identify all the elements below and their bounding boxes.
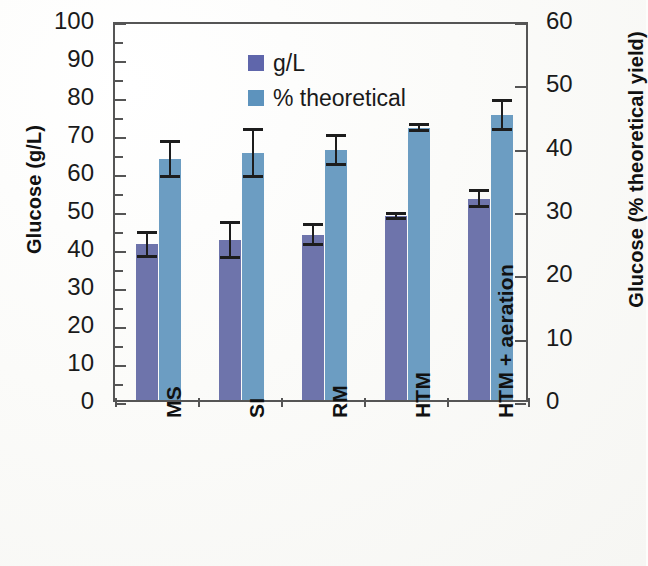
left-tick-label: 80: [32, 85, 94, 109]
left-tick-label: 70: [32, 123, 94, 147]
left-tick-label: 60: [32, 161, 94, 185]
left-tick-label: 20: [32, 313, 94, 337]
error-cap-bottom: [326, 163, 346, 166]
error-cap-top: [469, 189, 489, 192]
legend-swatch-pct-icon: [248, 90, 264, 106]
error-cap-bottom: [386, 217, 406, 220]
legend-item-pct: % theoretical: [248, 85, 468, 111]
error-cap-top: [160, 140, 180, 143]
legend-item-gl: g/L: [248, 50, 468, 76]
left-axis-tick-labels: 1009080706050403020100: [32, 0, 94, 566]
error-bar-pct: [335, 134, 337, 166]
left-tick-label: 90: [32, 47, 94, 71]
x-tick-mark: [528, 398, 530, 407]
bar-gl: [385, 216, 407, 400]
error-cap-top: [220, 221, 240, 224]
right-tick-label: 60: [546, 9, 608, 33]
error-bar-pct: [252, 128, 254, 179]
bar-pct: [159, 159, 181, 400]
error-cap-bottom: [492, 128, 512, 131]
error-bar-gl: [229, 221, 231, 259]
error-bar-gl: [395, 212, 397, 220]
right-axis-title: Glucose (% theoretical yield): [625, 0, 648, 340]
left-tick-label: 40: [32, 237, 94, 261]
x-category-label: HTM: [411, 372, 435, 418]
left-tick-label: 100: [32, 9, 94, 33]
error-cap-bottom: [469, 205, 489, 208]
error-cap-bottom: [160, 175, 180, 178]
right-tick-label: 10: [546, 326, 608, 350]
error-cap-top: [137, 231, 157, 234]
error-cap-bottom: [303, 243, 323, 246]
legend-label-pct: % theoretical: [273, 87, 406, 110]
legend-label-gl: g/L: [273, 52, 305, 75]
error-bar-gl: [146, 231, 148, 258]
left-tick-label: 0: [32, 389, 94, 413]
error-cap-bottom: [409, 129, 429, 132]
error-cap-top: [492, 99, 512, 102]
right-tick-label: 50: [546, 72, 608, 96]
bar-pct: [242, 153, 264, 400]
bar-gl: [219, 240, 241, 400]
left-tick-label: 30: [32, 275, 94, 299]
left-tick-label: 10: [32, 351, 94, 375]
error-cap-top: [386, 212, 406, 215]
error-cap-top: [243, 128, 263, 131]
plot-area: g/L % theoretical: [113, 22, 528, 402]
error-cap-bottom: [137, 255, 157, 258]
error-cap-top: [326, 134, 346, 137]
right-axis-tick-labels: 6050403020100: [546, 0, 608, 566]
error-bar-pct: [169, 140, 171, 178]
right-tick-label: 20: [546, 262, 608, 286]
x-category-label: SI: [245, 398, 269, 418]
error-cap-top: [303, 223, 323, 226]
right-tick-label: 40: [546, 136, 608, 160]
error-cap-top: [409, 123, 429, 126]
x-category-label: MS: [162, 386, 186, 418]
bar-gl: [136, 244, 158, 400]
bar-pct: [408, 128, 430, 400]
chart-legend: g/L % theoretical: [248, 50, 468, 120]
error-bar-gl: [478, 189, 480, 208]
left-tick-label: 50: [32, 199, 94, 223]
error-bar-gl: [312, 223, 314, 246]
bar-pct: [325, 150, 347, 400]
legend-swatch-gl-icon: [248, 55, 264, 71]
bar-gl: [302, 235, 324, 400]
error-bar-pct: [418, 123, 420, 132]
error-bar-pct: [501, 99, 503, 131]
x-category-label: RM: [328, 385, 352, 418]
right-tick-label: 30: [546, 199, 608, 223]
bar-gl: [468, 199, 490, 400]
error-cap-bottom: [243, 175, 263, 178]
x-category-label: HTM + aeration: [494, 264, 518, 418]
error-cap-bottom: [220, 256, 240, 259]
right-tick-label: 0: [546, 389, 608, 413]
bar-group: [136, 24, 181, 400]
